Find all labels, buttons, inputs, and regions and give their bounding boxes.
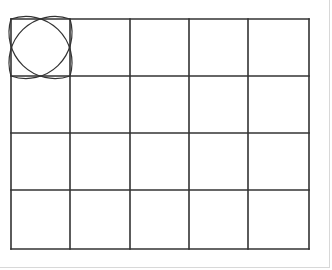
- petal-arc-2: [11, 19, 72, 79]
- grid-diagram: [0, 0, 332, 270]
- grid-lines: [11, 19, 309, 249]
- petal-arc-3: [9, 16, 70, 76]
- four-petal-flower-icon: [9, 16, 72, 78]
- petal-arc-1: [9, 19, 70, 79]
- petal-arc-0: [11, 16, 72, 76]
